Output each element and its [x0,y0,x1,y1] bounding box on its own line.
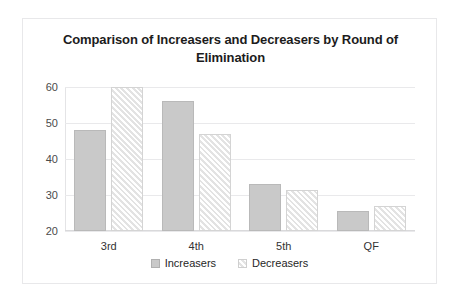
bar-decreasers-3rd [111,87,143,231]
bar-increasers-3rd [74,130,106,231]
y-axis-tick-label: 30 [46,189,58,201]
bar-increasers-4th [162,101,194,231]
bar-decreasers-5th [286,190,318,231]
y-axis-tick-label: 60 [46,81,58,93]
bar-group: QF [328,87,416,231]
bar-decreasers-qf [374,206,406,231]
x-axis-tick-label: 5th [240,240,328,252]
bar-group: 4th [153,87,241,231]
bar-group: 5th [240,87,328,231]
legend-label: Decreasers [252,257,308,269]
legend-item-increasers[interactable]: Increasers [151,257,216,269]
bar-increasers-5th [249,184,281,231]
legend-item-decreasers[interactable]: Decreasers [238,257,308,269]
y-axis-tick-label: 50 [46,117,58,129]
chart-legend: IncreasersDecreasers [23,257,436,269]
legend-label: Increasers [165,257,216,269]
y-axis-tick-label: 20 [46,225,58,237]
x-axis-tick-label: 3rd [65,240,153,252]
bar-increasers-qf [337,211,369,231]
y-axis-tick-label: 40 [46,153,58,165]
plot-area: 2030405060 3rd4th5thQF [65,87,415,231]
gridline [65,231,415,232]
legend-swatch-icon [238,259,247,268]
chart-frame: Comparison of Increasers and Decreasers … [22,18,437,284]
bar-group: 3rd [65,87,153,231]
bar-decreasers-4th [199,134,231,231]
x-axis-tick-label: 4th [153,240,241,252]
chart-title: Comparison of Increasers and Decreasers … [41,31,420,66]
legend-swatch-icon [151,259,160,268]
x-axis-tick-label: QF [328,240,416,252]
